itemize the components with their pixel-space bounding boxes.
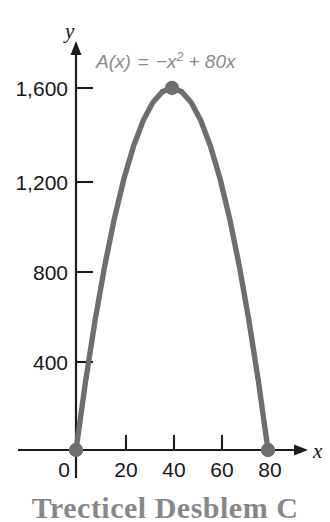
y-tick-label-1200: 1,200	[15, 171, 68, 194]
point-vertex-maximum	[165, 81, 179, 95]
point-x-intercept-left	[69, 443, 83, 457]
y-tick-label-400: 400	[33, 351, 68, 374]
x-axis-label: x	[312, 439, 323, 463]
parabola-curve	[76, 88, 268, 450]
equation-body-lead: −x	[156, 51, 178, 72]
x-tick-label-40: 40	[162, 458, 185, 481]
x-tick-labels: 0 20 40 60 80	[58, 458, 282, 481]
y-tick-label-800: 800	[33, 261, 68, 284]
y-tick-marks	[76, 88, 93, 362]
y-axis-label: y	[63, 19, 75, 43]
x-tick-marks	[126, 435, 222, 450]
point-x-intercept-right	[261, 443, 275, 457]
equation-exponent: 2	[176, 50, 184, 64]
x-axis-arrow-icon	[294, 445, 308, 456]
y-tick-labels: 1,600 1,200 800 400	[15, 77, 68, 374]
y-tick-label-1600: 1,600	[15, 77, 68, 100]
equation-body-tail: + 80x	[189, 51, 238, 72]
x-tick-label-0: 0	[58, 458, 70, 481]
x-tick-label-20: 20	[114, 458, 137, 481]
equation-equals: =	[138, 51, 149, 72]
equation-function-name: A(x)	[95, 51, 131, 72]
equation-annotation: A(x)=−x2+ 80x	[95, 50, 237, 72]
x-tick-label-80: 80	[258, 458, 281, 481]
x-tick-label-60: 60	[210, 458, 233, 481]
y-axis-arrow-icon	[71, 41, 82, 55]
